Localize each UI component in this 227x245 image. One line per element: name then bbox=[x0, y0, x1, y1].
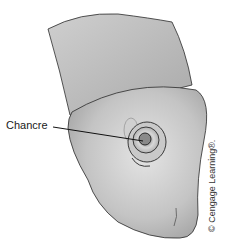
chancre-label: Chancre bbox=[6, 119, 48, 131]
copyright-credit: © Cengage Learning®. bbox=[207, 140, 217, 232]
perineum-shape bbox=[68, 87, 207, 238]
